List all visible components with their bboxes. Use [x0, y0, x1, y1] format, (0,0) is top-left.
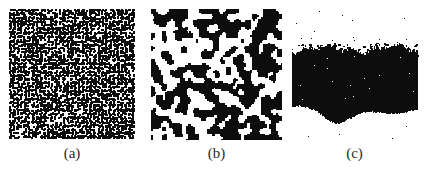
panel-b [151, 9, 282, 140]
panel-c [288, 4, 421, 140]
panel-a-image [9, 9, 135, 139]
panel-c-label: (c) [288, 146, 421, 161]
panel-b-label: (b) [151, 146, 282, 161]
panel-c-image [288, 4, 421, 140]
panel-b-image [151, 9, 282, 140]
panel-a-label: (a) [9, 146, 135, 161]
figure-container: (a) (b) (c) [0, 0, 428, 171]
panel-a [9, 9, 135, 139]
